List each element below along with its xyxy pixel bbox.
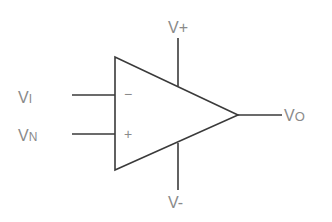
noninverting-input-label: VN — [18, 127, 37, 144]
inverting-sign: − — [124, 86, 132, 102]
inverting-input-label: VI — [18, 89, 32, 106]
op-amp-triangle — [115, 57, 238, 170]
positive-supply-label: V+ — [168, 19, 188, 36]
negative-supply-label: V- — [168, 194, 183, 211]
noninverting-sign: + — [124, 126, 132, 142]
op-amp-diagram: − + VI VN V+ V- VO — [0, 0, 332, 222]
output-label: VO — [284, 107, 305, 124]
